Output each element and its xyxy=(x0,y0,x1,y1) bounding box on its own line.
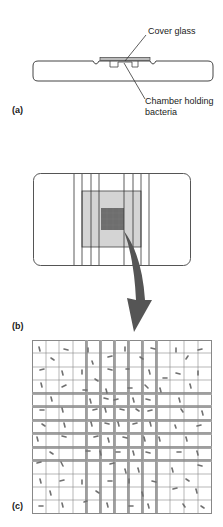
panel-c-label: (c) xyxy=(12,501,23,511)
counting-grid xyxy=(0,0,223,527)
